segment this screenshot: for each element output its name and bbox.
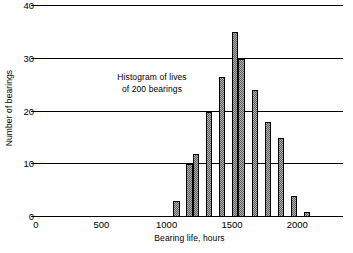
bar [291, 196, 298, 217]
bar [278, 138, 285, 217]
bar [304, 212, 311, 217]
x-axis-tick-labels: 0500100015002000 [36, 219, 343, 233]
x-tick-label-1500: 1500 [221, 219, 242, 230]
x-tick-label-1000: 1000 [156, 219, 177, 230]
x-axis-title: Bearing life, hours [36, 233, 343, 244]
x-tick-label-2000: 2000 [287, 219, 308, 230]
bar [265, 122, 272, 217]
bar [186, 164, 193, 217]
bar [238, 59, 245, 217]
bar [206, 112, 213, 218]
bar [193, 154, 200, 217]
bar [173, 201, 180, 217]
bar [252, 90, 259, 217]
bar-series [36, 6, 343, 217]
x-tick-label-500: 500 [93, 219, 109, 230]
histogram-chart: Number of bearings 010203040 Histogram o… [0, 0, 353, 253]
chart-annotation: Histogram of lives of 200 bearings [96, 72, 208, 95]
annotation-line-2: of 200 bearings [96, 84, 208, 96]
bar [219, 77, 226, 217]
plot-area: Histogram of lives of 200 bearings [36, 6, 343, 217]
annotation-line-1: Histogram of lives [96, 72, 208, 84]
x-tick-label-0: 0 [33, 219, 38, 230]
